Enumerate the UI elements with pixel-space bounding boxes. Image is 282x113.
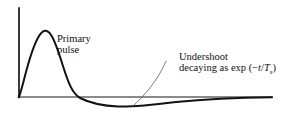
primary-pulse-label-line2: pulse (57, 44, 91, 55)
undershoot-leader-line (133, 61, 166, 106)
undershoot-label-line2: decaying as exp (−t/Ts) (179, 62, 276, 73)
undershoot-decay-text: decaying as exp (− (179, 62, 258, 73)
primary-pulse-label: Primary pulse (57, 33, 91, 55)
primary-pulse-label-line1: Primary (57, 33, 91, 44)
pulse-response-figure: Primary pulse Undershoot decaying as exp… (0, 0, 282, 113)
undershoot-label-line1: Undershoot (179, 51, 276, 62)
undershoot-label: Undershoot decaying as exp (−t/Ts) (179, 51, 276, 73)
undershoot-close-paren: ) (273, 62, 277, 73)
